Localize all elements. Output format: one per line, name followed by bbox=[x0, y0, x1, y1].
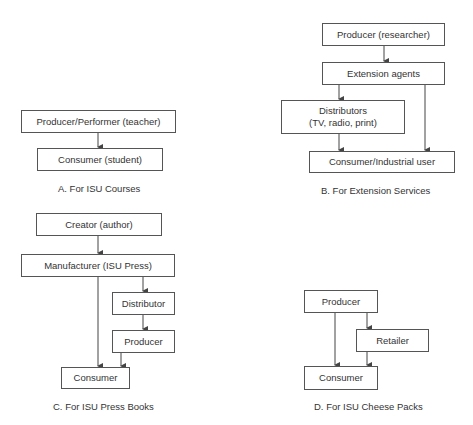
node-label: Producer (researcher) bbox=[337, 29, 430, 41]
node-d-consumer: Consumer bbox=[304, 366, 378, 390]
node-b-consumer: Consumer/Industrial user bbox=[309, 151, 455, 173]
node-label: Manufacturer (ISU Press) bbox=[44, 260, 152, 272]
node-label: Consumer bbox=[74, 372, 118, 384]
node-label: Distributors bbox=[319, 105, 367, 117]
node-b-distributors: Distributors (TV, radio, print) bbox=[281, 100, 405, 134]
node-b-producer: Producer (researcher) bbox=[322, 23, 445, 46]
node-label: Producer bbox=[124, 336, 163, 348]
caption-a: A. For ISU Courses bbox=[58, 183, 140, 194]
node-d-retailer: Retailer bbox=[356, 329, 429, 352]
node-c-producer: Producer bbox=[112, 330, 175, 353]
node-a-producer: Producer/Performer (teacher) bbox=[21, 110, 176, 133]
node-b-extension-agents: Extension agents bbox=[322, 62, 445, 85]
node-label: Retailer bbox=[376, 335, 409, 347]
node-c-creator: Creator (author) bbox=[36, 213, 162, 236]
node-label: (TV, radio, print) bbox=[309, 117, 377, 129]
node-c-consumer: Consumer bbox=[61, 367, 130, 389]
node-label: Extension agents bbox=[347, 68, 420, 80]
caption-c: C. For ISU Press Books bbox=[53, 401, 154, 412]
node-label: Consumer bbox=[319, 372, 363, 384]
node-label: Producer/Performer (teacher) bbox=[36, 116, 160, 128]
node-label: Distributor bbox=[122, 298, 165, 310]
node-label: Producer bbox=[322, 296, 361, 308]
node-c-manufacturer: Manufacturer (ISU Press) bbox=[21, 254, 175, 277]
node-a-consumer: Consumer (student) bbox=[37, 148, 163, 171]
caption-b: B. For Extension Services bbox=[321, 185, 430, 196]
node-label: Creator (author) bbox=[65, 219, 133, 231]
caption-d: D. For ISU Cheese Packs bbox=[314, 401, 423, 412]
node-c-distributor: Distributor bbox=[112, 292, 175, 315]
node-label: Consumer (student) bbox=[58, 154, 142, 166]
node-label: Consumer/Industrial user bbox=[329, 156, 435, 168]
node-d-producer: Producer bbox=[304, 290, 378, 313]
